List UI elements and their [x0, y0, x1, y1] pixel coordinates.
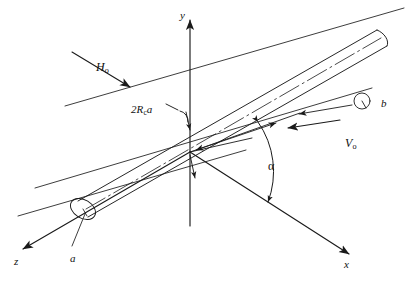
vector-H0-base: H — [96, 60, 105, 74]
ray-b — [299, 105, 352, 114]
label-angle-alpha: α — [268, 160, 274, 172]
dimension-label-core-diameter: 2Rca — [131, 104, 152, 116]
vector-V0-subscript: o — [352, 142, 356, 151]
cylinder-centerline — [86, 38, 381, 209]
label-radius-b: b — [381, 98, 387, 109]
axis-label-y: y — [180, 10, 185, 21]
dimension-suffix: a — [147, 103, 153, 115]
technical-diagram-figure: y x z Ho Vo 2Rca a b α — [0, 0, 413, 282]
dimension-arrows — [166, 104, 195, 178]
vector-V0 — [288, 120, 340, 128]
construction-plane-lines — [18, 8, 404, 216]
vector-label-V0: Vo — [345, 137, 357, 151]
dimension-prefix: 2R — [131, 103, 143, 115]
axis-label-x: x — [344, 259, 349, 270]
vector-label-H0: Ho — [96, 61, 109, 75]
vector-H0-subscript: o — [105, 66, 109, 75]
circle-b-marker — [354, 93, 370, 109]
label-radius-a: a — [70, 253, 76, 264]
rays-to-origin — [190, 113, 300, 152]
axis-label-z: z — [14, 256, 18, 267]
radius-a-indicator — [72, 209, 87, 246]
